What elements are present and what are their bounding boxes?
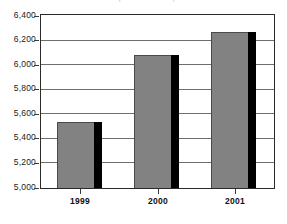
bar (134, 55, 172, 188)
x-axis-labels: 199920002001 (40, 196, 275, 210)
y-axis-tick-mark (34, 16, 39, 17)
bar-shadow (94, 122, 102, 188)
y-axis-labels: 6,4006,2006,0005,8005,6005,4005,2005,000 (0, 0, 38, 224)
bar-shadow (248, 32, 256, 188)
y-axis-tick-label: 5,600 (0, 109, 36, 118)
y-axis-tick-label: 6,200 (0, 35, 36, 44)
y-axis-tick-mark (34, 188, 39, 189)
x-axis-category-label: 2000 (148, 196, 168, 206)
plot-area (40, 14, 275, 189)
x-axis-category-label: 2001 (225, 196, 245, 206)
x-axis-ticks (40, 189, 275, 195)
chart-title-remnant: (in thousands) (118, 0, 278, 3)
chart-title-remnant-text: (in thousands) (118, 0, 176, 2)
y-axis-tick-label: 5,400 (0, 133, 36, 142)
y-axis-tick-mark (34, 114, 39, 115)
y-axis-tick-mark (34, 40, 39, 41)
y-axis-tick-mark (34, 65, 39, 66)
y-axis-tick-label: 5,200 (0, 158, 36, 167)
y-axis-tick-mark (34, 163, 39, 164)
bar-shadow (171, 55, 179, 188)
bar-chart: (in thousands) 6,4006,2006,0005,8005,600… (0, 0, 287, 224)
x-axis-tick-mark (80, 189, 81, 194)
y-axis-tick-mark (34, 89, 39, 90)
y-axis-tick-label: 5,800 (0, 84, 36, 93)
x-axis-tick-mark (235, 189, 236, 194)
x-axis-tick-mark (158, 189, 159, 194)
y-axis-tick-mark (34, 138, 39, 139)
y-axis-tick-label: 5,000 (0, 183, 36, 192)
x-axis-category-label: 1999 (70, 196, 90, 206)
y-axis-tick-label: 6,400 (0, 11, 36, 20)
y-axis-tick-label: 6,000 (0, 60, 36, 69)
bar (211, 32, 249, 188)
bar (57, 122, 95, 188)
